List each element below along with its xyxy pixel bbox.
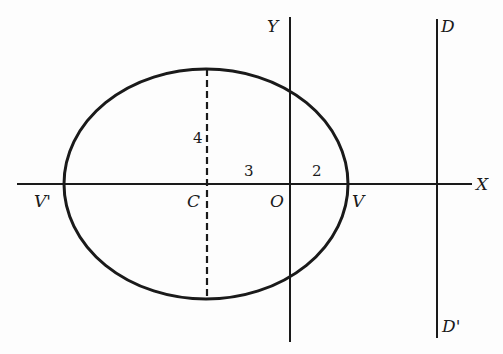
label-vertex-left: V' bbox=[34, 193, 51, 210]
label-directrix-bottom: D' bbox=[442, 318, 460, 335]
dimension-origin-to-vertex: 2 bbox=[312, 164, 322, 179]
ellipse-diagram: X Y O C V V' D D' 4 3 2 bbox=[0, 0, 503, 354]
label-center: C bbox=[187, 193, 200, 210]
label-x-axis: X bbox=[476, 176, 488, 193]
label-directrix-top: D bbox=[441, 18, 455, 35]
label-origin: O bbox=[270, 193, 284, 210]
dimension-center-to-origin: 3 bbox=[244, 164, 254, 179]
label-vertex-right: V bbox=[352, 193, 364, 210]
label-y-axis: Y bbox=[267, 18, 278, 35]
dimension-semi-minor: 4 bbox=[193, 131, 203, 146]
